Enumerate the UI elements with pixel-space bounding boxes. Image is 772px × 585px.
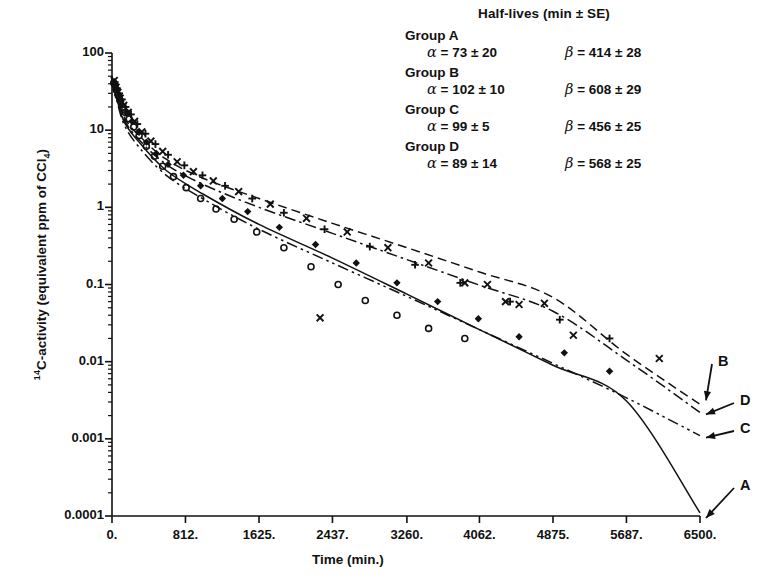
legend-beta-halflife: β = 414 ± 28 <box>565 44 641 60</box>
alpha-value: = 89 ± 14 <box>437 156 497 171</box>
beta-value: = 456 ± 25 <box>573 119 641 134</box>
legend-group-d: Group Dα = 89 ± 14β = 568 ± 25 <box>405 139 755 171</box>
y-axis-title-superscript: 14 <box>32 370 42 380</box>
curve-label-arrows <box>704 364 734 518</box>
legend-group-name: Group A <box>405 28 755 43</box>
legend-beta-halflife: β = 456 ± 25 <box>565 118 641 134</box>
curve-label-c: C <box>740 420 750 436</box>
legend-group-values: α = 102 ± 10β = 608 ± 29 <box>405 81 755 97</box>
x-tick-label: 4875. <box>518 527 588 542</box>
curve-label-a: A <box>740 477 750 493</box>
x-tick-label: 1625. <box>224 527 294 542</box>
legend-alpha-halflife: α = 73 ± 20 <box>427 44 565 60</box>
alpha-value: = 102 ± 10 <box>437 82 505 97</box>
x-tick-label: 3260. <box>372 527 442 542</box>
y-axis-title-close: ) <box>34 149 49 154</box>
alpha-value: = 99 ± 5 <box>437 119 490 134</box>
legend-group-values: α = 73 ± 20β = 414 ± 28 <box>405 44 755 60</box>
legend-panel: Half-lives (min ± SE) Group Aα = 73 ± 20… <box>405 6 755 176</box>
curve-label-b: B <box>718 353 728 369</box>
alpha-value: = 73 ± 20 <box>437 45 497 60</box>
legend-alpha-halflife: α = 102 ± 10 <box>427 81 565 97</box>
legend-beta-halflife: β = 608 ± 29 <box>565 81 641 97</box>
alpha-symbol: α <box>427 81 437 97</box>
x-tick-label: 6500. <box>665 527 735 542</box>
y-axis-title: 14C-activity (equivalent ppm of CCl4) <box>32 105 51 425</box>
legend-group-name: Group C <box>405 102 755 117</box>
x-tick-label: 4062. <box>444 527 514 542</box>
legend-alpha-halflife: α = 89 ± 14 <box>427 155 565 171</box>
x-tick-label: 812. <box>150 527 220 542</box>
legend-group-a: Group Aα = 73 ± 20β = 414 ± 28 <box>405 28 755 60</box>
curve-label-d: D <box>740 392 750 408</box>
y-axis-title-main: C-activity (equivalent ppm of CCl <box>34 159 49 371</box>
arrow-head-b <box>704 391 711 400</box>
x-tick-label: 2437. <box>297 527 367 542</box>
legend-alpha-halflife: α = 99 ± 5 <box>427 118 565 134</box>
legend-group-name: Group D <box>405 139 755 154</box>
arrow-head-d <box>706 408 716 415</box>
legend-group-values: α = 99 ± 5β = 456 ± 25 <box>405 118 755 134</box>
y-tick-label: 100 <box>34 44 104 59</box>
legend-group-name: Group B <box>405 65 755 80</box>
alpha-symbol: α <box>427 44 437 60</box>
legend-group-values: α = 89 ± 14β = 568 ± 25 <box>405 155 755 171</box>
beta-value: = 608 ± 29 <box>573 82 641 97</box>
legend-beta-halflife: β = 568 ± 25 <box>565 155 641 171</box>
alpha-symbol: α <box>427 118 437 134</box>
legend-group-b: Group Bα = 102 ± 10β = 608 ± 29 <box>405 65 755 97</box>
x-tick-label: 0. <box>77 527 147 542</box>
x-axis-title: Time (min.) <box>312 552 384 567</box>
legend-group-list: Group Aα = 73 ± 20β = 414 ± 28Group Bα =… <box>405 28 755 171</box>
figure-root: 1001010.10.010.0010.0001 0.812.1625.2437… <box>0 0 772 585</box>
beta-value: = 568 ± 25 <box>573 156 641 171</box>
legend-group-c: Group Cα = 99 ± 5β = 456 ± 25 <box>405 102 755 134</box>
beta-value: = 414 ± 28 <box>573 45 641 60</box>
y-tick-label: 0.0001 <box>34 507 104 522</box>
y-tick-label: 0.001 <box>34 430 104 445</box>
x-tick-label: 5687. <box>591 527 661 542</box>
alpha-symbol: α <box>427 155 437 171</box>
y-axis-title-subscript: 4 <box>42 154 52 159</box>
legend-title: Half-lives (min ± SE) <box>413 6 675 21</box>
